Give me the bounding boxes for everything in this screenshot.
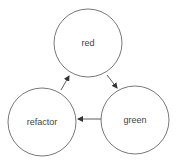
edge-refactor-to-red [61,76,69,90]
node-green: green [101,86,169,154]
cycle-diagram: red green refactor [0,0,177,166]
edge-red-to-green [107,75,117,88]
node-refactor: refactor [8,88,76,156]
node-red: red [54,9,122,77]
node-label-refactor: refactor [27,117,58,127]
node-label-green: green [123,115,146,125]
node-label-red: red [81,38,94,48]
